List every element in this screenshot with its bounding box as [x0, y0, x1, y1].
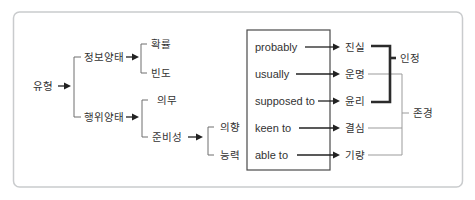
- meaning-column: 진실 운명 윤리 결심 기량: [345, 41, 365, 161]
- frequency-label: 빈도: [151, 67, 171, 79]
- arrowhead-icon: [132, 114, 139, 121]
- arrowhead-icon: [333, 98, 340, 105]
- expression-keen-to: keen to: [255, 122, 291, 134]
- expression-able-to: able to: [255, 149, 288, 161]
- meaning-truth: 진실: [345, 41, 365, 53]
- meaning-destiny: 운명: [345, 68, 365, 80]
- tree-bracket: [141, 44, 147, 73]
- meaning-ethics: 윤리: [345, 95, 365, 107]
- act-modality-label: 행위양태: [84, 111, 124, 123]
- meaning-determination: 결심: [345, 122, 365, 134]
- ability-label: 능력: [220, 149, 240, 161]
- probability-label: 확률: [151, 38, 171, 50]
- arrowhead-icon: [333, 125, 340, 132]
- arrowhead-icon: [132, 54, 139, 61]
- expression-probably: probably: [255, 41, 298, 53]
- figure: 유형 정보양태 확률 빈도 행위양태 의무 준비성 의향 능력 probably…: [0, 0, 475, 200]
- arrowhead-icon: [196, 134, 203, 141]
- tree-bracket: [74, 57, 81, 117]
- arrowhead-icon: [333, 152, 340, 159]
- group-brackets: 존경 인정: [368, 46, 433, 155]
- obligation-label: 의무: [157, 94, 177, 106]
- meaning-skill: 기량: [345, 149, 365, 161]
- intention-label: 의향: [220, 121, 240, 133]
- mapping-box: probably usually supposed to keen to abl…: [247, 30, 340, 170]
- info-modality-label: 정보양태: [84, 51, 124, 63]
- group-acknowledgment-label: 인정: [400, 52, 420, 64]
- tree-bracket: [142, 100, 148, 137]
- root-label: 유형: [33, 80, 53, 92]
- readiness-label: 준비성: [152, 131, 182, 143]
- group-respect-label: 존경: [413, 107, 433, 119]
- tree-bracket: [208, 127, 214, 155]
- arrowhead-icon: [64, 83, 71, 90]
- left-tree: 유형 정보양태 확률 빈도 행위양태 의무 준비성 의향 능력: [33, 38, 240, 161]
- arrowhead-icon: [333, 44, 340, 51]
- expression-usually: usually: [255, 68, 290, 80]
- arrowhead-icon: [333, 71, 340, 78]
- expression-supposed-to: supposed to: [255, 95, 315, 107]
- modality-diagram: 유형 정보양태 확률 빈도 행위양태 의무 준비성 의향 능력 probably…: [0, 0, 475, 200]
